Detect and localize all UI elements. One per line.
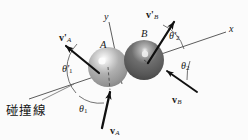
v-a-subscript: A	[115, 129, 120, 137]
collision-diagram: x y A B v'A v'B vA vB θ'1 θ1 θ'2 θ2 碰撞線	[0, 0, 248, 140]
vector-label-v-a: vA	[110, 126, 120, 137]
angle-label-theta-1: θ1	[79, 104, 87, 115]
theta-1-prime-subscript: 1	[69, 67, 73, 75]
vector-v-b	[167, 71, 197, 92]
vector-label-v-a-prime: v'A	[59, 33, 71, 44]
angle-label-theta-2-prime: θ'2	[169, 31, 180, 42]
caption-leader-line	[42, 84, 74, 100]
v-b-prime-subscript: B	[154, 13, 159, 21]
angle-label-theta-2: θ2	[181, 61, 189, 72]
collision-line-caption: 碰撞線	[6, 105, 46, 118]
ball-b-label: B	[141, 29, 147, 40]
angle-label-theta-1-prime: θ'1	[62, 64, 73, 75]
vector-label-v-b-prime: v'B	[146, 10, 158, 21]
theta-2-prime-subscript: 2	[176, 34, 180, 42]
v-a-prime-subscript: A	[67, 36, 72, 44]
theta-1-subscript: 1	[84, 107, 88, 115]
ball-a-label: A	[100, 40, 106, 51]
vector-v-a	[102, 92, 110, 128]
v-b-subscript: B	[177, 98, 182, 106]
diagram-canvas	[0, 0, 248, 140]
x-axis-label: x	[229, 24, 233, 34]
vector-label-v-b: vB	[172, 95, 182, 106]
theta-2-subscript: 2	[186, 64, 190, 72]
y-axis-label: y	[104, 12, 108, 22]
